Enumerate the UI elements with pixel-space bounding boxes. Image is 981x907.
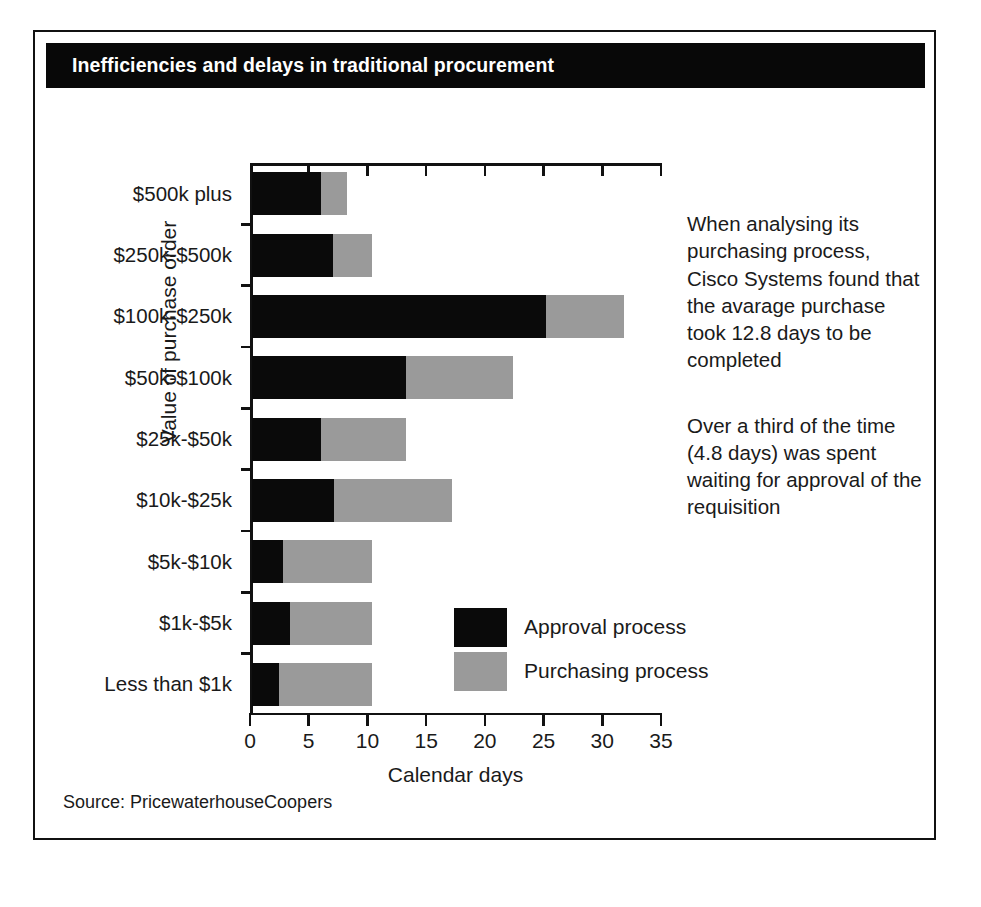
page-title: Inefficiencies and delays in traditional… <box>72 54 554 77</box>
bar-row <box>252 479 452 522</box>
bar-segment-approval <box>252 663 279 706</box>
x-axis-tick-label: 0 <box>244 729 256 753</box>
y-axis-category-label: $50k-$100k <box>125 366 232 390</box>
x-axis-tick <box>249 713 252 726</box>
top-axis-tick <box>425 163 428 176</box>
bar-segment-purchasing <box>279 663 372 706</box>
bar-segment-approval <box>252 418 321 461</box>
y-axis-tick <box>241 652 252 655</box>
y-axis-tick <box>241 407 252 410</box>
x-axis-tick-label: 25 <box>532 729 555 753</box>
bar-segment-approval <box>252 356 406 399</box>
bar-row <box>252 356 513 399</box>
x-axis-tick <box>425 713 428 726</box>
x-axis-tick <box>484 713 487 726</box>
bar-segment-approval <box>252 540 283 583</box>
bar-segment-purchasing <box>321 418 406 461</box>
legend-label: Approval process <box>524 615 686 639</box>
x-axis-title: Calendar days <box>250 763 661 787</box>
top-axis-tick <box>366 163 369 176</box>
top-axis-tick <box>660 163 663 176</box>
y-axis-tick <box>241 223 252 226</box>
bar-row <box>252 234 372 277</box>
top-axis-tick <box>601 163 604 176</box>
annotation-block: When analysing its purchasing process, C… <box>687 210 922 521</box>
x-axis-tick <box>366 713 369 726</box>
x-axis-tick-label: 35 <box>649 729 672 753</box>
bar-row <box>252 172 347 215</box>
top-axis-line <box>250 163 661 166</box>
bar-segment-approval <box>252 234 333 277</box>
legend-item: Approval process <box>454 605 714 649</box>
bar-segment-purchasing <box>406 356 513 399</box>
bar-segment-approval <box>252 602 290 645</box>
y-axis-category-label: $10k-$25k <box>136 488 232 512</box>
legend-swatch-purchasing <box>454 652 507 691</box>
x-axis-tick-label: 20 <box>473 729 496 753</box>
x-axis-tick <box>542 713 545 726</box>
y-axis-category-label: $500k plus <box>133 182 232 206</box>
top-axis-tick <box>484 163 487 176</box>
y-axis-category-label: $25k-$50k <box>136 427 232 451</box>
bar-segment-purchasing <box>333 234 372 277</box>
bar-segment-approval <box>252 295 546 338</box>
x-axis-tick-label: 5 <box>303 729 315 753</box>
y-axis-tick <box>241 468 252 471</box>
bar-row <box>252 663 372 706</box>
annotation-text: Over a third of the time (4.8 days) was … <box>687 412 922 521</box>
source-note: Source: PricewaterhouseCoopers <box>63 792 332 813</box>
y-axis-tick <box>241 284 252 287</box>
x-axis-tick-label: 15 <box>414 729 437 753</box>
y-axis-tick <box>241 591 252 594</box>
x-axis-tick <box>601 713 604 726</box>
bar-segment-approval <box>252 172 321 215</box>
top-axis-tick <box>542 163 545 176</box>
x-axis-tick-label: 10 <box>356 729 379 753</box>
y-axis-tick <box>241 346 252 349</box>
bar-segment-purchasing <box>283 540 372 583</box>
bar-segment-purchasing <box>290 602 372 645</box>
y-axis-category-label: $5k-$10k <box>148 550 232 574</box>
y-axis-category-label: $1k-$5k <box>159 611 232 635</box>
bar-segment-purchasing <box>321 172 347 215</box>
legend-swatch-approval <box>454 608 507 647</box>
y-axis-tick <box>241 530 252 533</box>
bar-row <box>252 418 406 461</box>
legend: Approval processPurchasing process <box>454 605 714 693</box>
annotation-text: When analysing its purchasing process, C… <box>687 210 922 374</box>
bar-row <box>252 295 624 338</box>
bar-segment-approval <box>252 479 334 522</box>
figure-panel: Inefficiencies and delays in traditional… <box>33 30 936 840</box>
y-axis-category-label: Less than $1k <box>104 672 232 696</box>
y-axis-category-label: $250k-$500k <box>113 243 232 267</box>
bar-row <box>252 602 372 645</box>
x-axis-tick <box>307 713 310 726</box>
bar-segment-purchasing <box>546 295 625 338</box>
x-axis-tick-label: 30 <box>591 729 614 753</box>
x-axis-line <box>250 713 661 716</box>
legend-label: Purchasing process <box>524 659 708 683</box>
bar-row <box>252 540 372 583</box>
x-axis-tick <box>660 713 663 726</box>
legend-item: Purchasing process <box>454 649 714 693</box>
y-axis-category-label: $100k-$250k <box>113 304 232 328</box>
title-bar: Inefficiencies and delays in traditional… <box>46 43 925 88</box>
bar-segment-purchasing <box>334 479 451 522</box>
